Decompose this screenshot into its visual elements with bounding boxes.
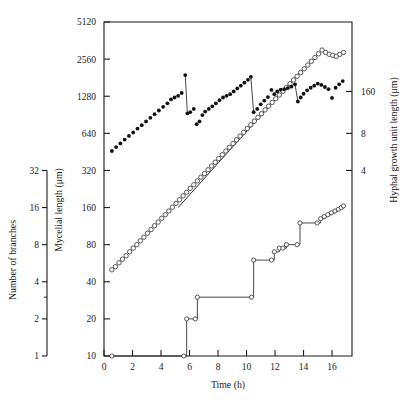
hgu-point <box>140 123 144 127</box>
mycelial-point <box>120 257 124 261</box>
left-inner-axis-ticks <box>104 22 110 356</box>
branches-point <box>284 243 288 247</box>
left-outer-axis-title: Number of branches <box>7 220 18 300</box>
branches-point <box>182 354 186 358</box>
left-inner-tick-label: 640 <box>82 129 97 139</box>
mycelial-point <box>152 224 156 228</box>
mycelial-point <box>138 239 142 243</box>
hgu-point <box>232 90 236 94</box>
x-axis-tick-label: 14 <box>299 362 309 372</box>
mycelial-point <box>199 175 203 179</box>
figure-container: 51202560128064032016080402010 32168421 1… <box>0 0 412 403</box>
mycelial-point <box>117 261 121 265</box>
hgu-point <box>309 86 313 90</box>
hgu-point <box>180 91 184 95</box>
branches-point <box>281 246 285 250</box>
x-axis-title: Time (h) <box>211 379 245 391</box>
hgu-point <box>203 110 207 114</box>
mycelial-point <box>302 67 306 71</box>
hgu-point <box>131 131 135 135</box>
mycelial-point <box>174 201 178 205</box>
hgu-drop-connector <box>295 84 298 101</box>
hgu-point <box>218 98 222 102</box>
mycelial-point <box>127 250 131 254</box>
left-inner-axis-title: Mycelial length (μm) <box>53 168 65 252</box>
hgu-point <box>296 100 300 104</box>
x-axis-tick-label: 16 <box>327 362 337 372</box>
mycelial-point <box>213 160 217 164</box>
branches-point <box>269 258 273 262</box>
hgu-point <box>323 85 327 89</box>
x-axis-tick-label: 8 <box>216 362 221 372</box>
mycelial-point <box>145 231 149 235</box>
mycelial-point <box>245 126 249 130</box>
mycelial-point <box>202 171 206 175</box>
left-inner-tick-label: 160 <box>82 203 97 213</box>
mycelial-point <box>309 59 313 63</box>
right-axis-tick-label: 160 <box>361 87 376 97</box>
branches-point <box>272 250 276 254</box>
branches-point <box>249 295 253 299</box>
hgu-point <box>312 84 316 88</box>
left-inner-tick-label: 80 <box>87 240 97 250</box>
left-inner-tick-label: 40 <box>87 277 97 287</box>
hgu-point <box>214 101 218 105</box>
x-axis-labels: 0246810121416 <box>102 362 337 372</box>
mycelial-point <box>231 141 235 145</box>
hgu-point <box>225 94 229 98</box>
mycelial-point <box>160 216 164 220</box>
hgu-point <box>239 84 243 88</box>
mycelial-point <box>298 70 302 74</box>
mycelial-point <box>277 93 281 97</box>
frame-border <box>104 22 352 356</box>
mycelial-point <box>259 111 263 115</box>
mycelial-point <box>135 242 139 246</box>
mycelial-point <box>163 213 167 217</box>
series-hyphal-growth-unit <box>110 73 345 153</box>
branches-step-line <box>112 206 344 356</box>
mycelial-growth-chart: 51202560128064032016080402010 32168421 1… <box>0 0 412 403</box>
branches-point <box>110 354 114 358</box>
mycelial-point <box>124 254 128 258</box>
left-outer-tick-label: 8 <box>34 240 39 250</box>
hgu-point <box>272 92 276 96</box>
hgu-point <box>221 96 225 100</box>
mycelial-point <box>192 183 196 187</box>
hgu-point <box>293 82 297 86</box>
mycelial-point <box>184 190 188 194</box>
hgu-point <box>334 86 338 90</box>
mycelial-point <box>227 145 231 149</box>
branches-point <box>252 258 256 262</box>
hgu-point <box>305 88 309 92</box>
mycelial-point <box>149 227 153 231</box>
mycelial-point <box>167 209 171 213</box>
x-axis-tick-label: 10 <box>242 362 252 372</box>
hgu-drop-connector <box>185 75 187 113</box>
mycelial-point <box>234 138 238 142</box>
x-axis-ticks <box>104 350 332 356</box>
hgu-point <box>169 98 173 102</box>
hgu-point <box>123 138 127 142</box>
mycelial-point <box>209 164 213 168</box>
hgu-point <box>144 119 148 123</box>
mycelial-point <box>217 156 221 160</box>
hgu-point <box>210 104 214 108</box>
hgu-point <box>188 110 192 114</box>
mycelial-point <box>181 194 185 198</box>
hgu-point <box>207 107 211 111</box>
mycelial-point <box>195 179 199 183</box>
hgu-point <box>249 75 253 79</box>
hgu-point <box>148 116 152 120</box>
hgu-point <box>242 81 246 85</box>
x-axis-tick-label: 12 <box>270 362 280 372</box>
hgu-point <box>166 101 170 105</box>
branches-point <box>185 317 189 321</box>
mycelial-point <box>156 220 160 224</box>
left-outer-tick-label: 2 <box>34 314 39 324</box>
hgu-point <box>161 105 165 109</box>
mycelial-point <box>249 123 253 127</box>
hgu-point <box>192 107 196 111</box>
left-inner-tick-label: 1280 <box>77 92 96 102</box>
hgu-point <box>270 88 274 92</box>
mycelial-point <box>224 149 228 153</box>
